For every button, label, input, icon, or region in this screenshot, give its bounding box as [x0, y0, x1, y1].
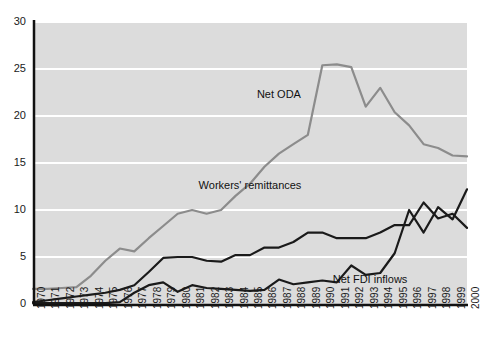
y-tick-label: 15	[2, 157, 26, 168]
x-tick-label: 1987	[283, 287, 293, 309]
y-tick-label: 10	[2, 204, 26, 215]
x-tick-label: 1990	[326, 287, 336, 309]
x-tick-label: 1979	[167, 287, 177, 309]
x-tick-label: 1998	[442, 287, 452, 309]
y-tick-label: 30	[2, 16, 26, 27]
x-tick-label: 2000	[471, 287, 480, 309]
x-tick-label: 1982	[211, 287, 221, 309]
x-tick-label: 1988	[297, 287, 307, 309]
x-tick-label: 1984	[240, 287, 250, 309]
x-tick-label: 1995	[399, 287, 409, 309]
x-tick-label: 1971	[51, 287, 61, 309]
x-tick-label: 1980	[182, 287, 192, 309]
x-tick-label: 1975	[109, 287, 119, 309]
x-tick-label: 1977	[138, 287, 148, 309]
x-tick-label: 1974	[95, 287, 105, 309]
x-tick-label: 1970	[37, 287, 47, 309]
series-label-workers-remittances: Workers' remittances	[199, 180, 302, 191]
x-tick-label: 1978	[153, 287, 163, 309]
x-tick-label: 1996	[413, 287, 423, 309]
x-tick-label: 1976	[124, 287, 134, 309]
x-tick-label: 1997	[428, 287, 438, 309]
x-tick-label: 1992	[355, 287, 365, 309]
x-tick-label: 1972	[66, 287, 76, 309]
x-tick-label: 1983	[225, 287, 235, 309]
y-tick-label: 5	[2, 251, 26, 262]
y-tick-label: 25	[2, 63, 26, 74]
series-label-net-fdi-inflows: Net FDI inflows	[333, 274, 408, 285]
x-tick-label: 1999	[457, 287, 467, 309]
chart-container: 051015202530 197019711972197319741975197…	[0, 0, 480, 343]
x-tick-label: 1973	[80, 287, 90, 309]
x-tick-label: 1986	[268, 287, 278, 309]
x-tick-label: 1991	[341, 287, 351, 309]
x-tick-label: 1989	[312, 287, 322, 309]
x-tick-label: 1985	[254, 287, 264, 309]
x-tick-label: 1981	[196, 287, 206, 309]
y-tick-label: 0	[2, 298, 26, 309]
y-tick-label: 20	[2, 110, 26, 121]
x-tick-label: 1994	[384, 287, 394, 309]
series-label-net-oda: Net ODA	[257, 89, 301, 100]
x-tick-label: 1993	[370, 287, 380, 309]
